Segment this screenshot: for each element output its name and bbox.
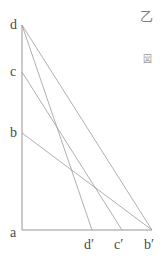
annotation-mark-otsu: 乙 <box>140 10 153 23</box>
point-label-c: c <box>10 65 16 79</box>
point-label-b-prime: b′ <box>144 238 154 252</box>
point-label-a: a <box>10 226 16 240</box>
ray-c-to-c-prime <box>22 72 122 230</box>
figure-container: d c b a d′ c′ b′ 乙 図 <box>0 0 165 265</box>
point-label-b: b <box>10 126 17 140</box>
point-label-d: d <box>10 18 17 32</box>
point-label-d-prime: d′ <box>84 238 94 252</box>
figure-drawing <box>0 0 165 265</box>
annotation-mark-zu: 図 <box>143 55 152 64</box>
ray-d-to-b-prime <box>22 25 152 230</box>
point-label-c-prime: c′ <box>114 238 123 252</box>
